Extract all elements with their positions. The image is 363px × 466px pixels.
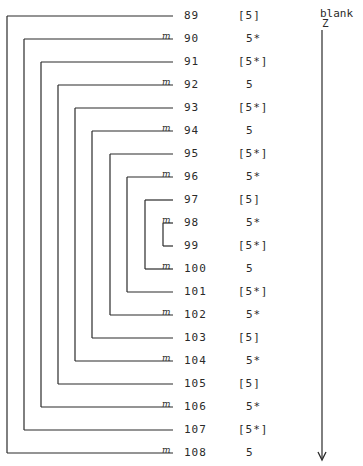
row-value: 5* xyxy=(246,33,261,45)
m-marker: m xyxy=(162,400,171,409)
row-value: [5] xyxy=(238,194,261,206)
row-number: 93 xyxy=(184,102,199,114)
row-number: 106 xyxy=(184,401,207,413)
m-marker: m xyxy=(162,446,171,455)
m-marker: m xyxy=(162,354,171,363)
row-value: 5* xyxy=(246,171,261,183)
row-number: 90 xyxy=(184,33,199,45)
row-number: 103 xyxy=(184,332,207,344)
row-value: 5 xyxy=(246,125,254,137)
row-number: 96 xyxy=(184,171,199,183)
row-number: 99 xyxy=(184,240,199,252)
m-marker: m xyxy=(162,308,171,317)
row-value: [5*] xyxy=(238,148,269,160)
row-value: 5 xyxy=(246,447,254,459)
side-label-z: Z xyxy=(322,18,329,29)
row-value: 5* xyxy=(246,217,261,229)
row-value: 5* xyxy=(246,355,261,367)
row-value: [5*] xyxy=(238,240,269,252)
row-value: [5*] xyxy=(238,56,269,68)
row-number: 97 xyxy=(184,194,199,206)
bracket-lines xyxy=(0,0,363,466)
row-number: 101 xyxy=(184,286,207,298)
row-number: 104 xyxy=(184,355,207,367)
row-value: [5] xyxy=(238,378,261,390)
m-marker: m xyxy=(162,216,171,225)
row-number: 108 xyxy=(184,447,207,459)
row-value: 5 xyxy=(246,79,254,91)
row-number: 89 xyxy=(184,10,199,22)
m-marker: m xyxy=(162,124,171,133)
row-number: 91 xyxy=(184,56,199,68)
row-number: 94 xyxy=(184,125,199,137)
row-value: 5 xyxy=(246,263,254,275)
m-marker: m xyxy=(162,32,171,41)
row-number: 105 xyxy=(184,378,207,390)
m-marker: m xyxy=(162,262,171,271)
row-number: 100 xyxy=(184,263,207,275)
row-value: [5*] xyxy=(238,286,269,298)
row-value: 5* xyxy=(246,401,261,413)
m-marker: m xyxy=(162,170,171,179)
row-number: 98 xyxy=(184,217,199,229)
row-number: 95 xyxy=(184,148,199,160)
row-value: [5] xyxy=(238,332,261,344)
row-value: [5*] xyxy=(238,424,269,436)
m-marker: m xyxy=(162,78,171,87)
row-value: 5* xyxy=(246,309,261,321)
row-number: 107 xyxy=(184,424,207,436)
row-value: [5*] xyxy=(238,102,269,114)
row-value: [5] xyxy=(238,10,261,22)
row-number: 92 xyxy=(184,79,199,91)
row-number: 102 xyxy=(184,309,207,321)
